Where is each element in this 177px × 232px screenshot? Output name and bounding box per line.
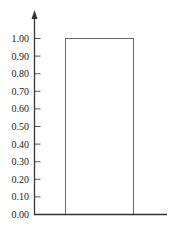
y-tick-label: 0.70 [12,86,30,97]
y-axis-ticks: 0.000.100.200.300.400.500.600.700.800.90… [12,33,41,220]
y-tick-label: 0.80 [12,68,30,79]
y-tick-label: 1.00 [12,33,30,44]
y-tick-label: 0.60 [12,103,30,114]
y-tick-label: 0.20 [12,174,30,185]
y-tick-label: 0.10 [12,191,30,202]
bar [66,39,134,215]
y-tick-label: 0.90 [12,51,30,62]
y-tick-label: 0.50 [12,121,30,132]
y-tick-label: 0.30 [12,156,30,167]
y-axis-arrow-icon [32,10,38,19]
bar-chart: 0.000.100.200.300.400.500.600.700.800.90… [0,0,177,232]
y-tick-label: 0.40 [12,139,30,150]
y-tick-label: 0.00 [12,209,30,220]
